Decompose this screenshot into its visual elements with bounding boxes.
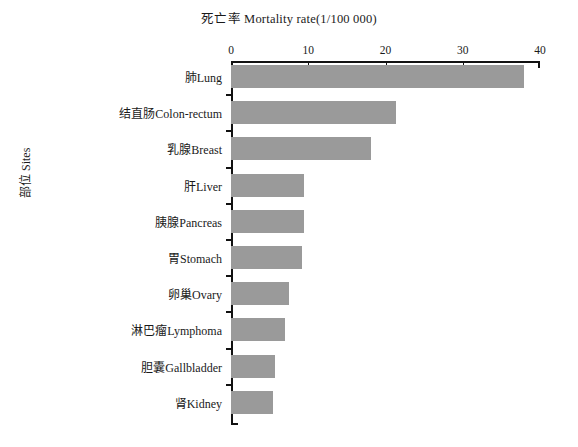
bar-row: 结直肠Colon-rectum xyxy=(231,101,540,124)
y-tick xyxy=(226,311,231,313)
plot-area: 010203040 肺Lung结直肠Colon-rectum乳腺Breast肝L… xyxy=(231,61,540,425)
category-label: 淋巴瘤Lymphoma xyxy=(2,321,231,339)
x-tick-label: 20 xyxy=(380,44,392,56)
bar-row: 肺Lung xyxy=(231,65,540,88)
x-tick-label: 30 xyxy=(457,44,469,56)
bar xyxy=(231,137,371,160)
y-tick xyxy=(226,275,231,277)
y-tick xyxy=(226,167,231,169)
bar-row: 胰腺Pancreas xyxy=(231,210,540,233)
bar-row: 肾Kidney xyxy=(231,391,540,414)
y-tick xyxy=(226,130,231,132)
bar xyxy=(231,65,524,88)
y-tick xyxy=(226,203,231,205)
category-label: 肺Lung xyxy=(2,68,231,86)
x-tick-label: 0 xyxy=(228,44,234,56)
category-label: 乳腺Breast xyxy=(2,140,231,158)
bar xyxy=(231,101,396,124)
category-label: 肝Liver xyxy=(2,177,231,195)
category-label: 卵巢Ovary xyxy=(2,285,231,303)
mortality-rate-bar-chart: 死亡率 Mortality rate(1/100 000) 部位 Sites 0… xyxy=(0,0,578,447)
category-label: 肾Kidney xyxy=(2,394,231,412)
y-tick xyxy=(226,239,231,241)
bar-row: 淋巴瘤Lymphoma xyxy=(231,318,540,341)
x-tick-label: 40 xyxy=(534,44,546,56)
x-tick-label: 10 xyxy=(303,44,315,56)
y-tick xyxy=(226,348,231,350)
bar xyxy=(231,391,273,414)
category-label: 胆囊Gallbladder xyxy=(2,358,231,376)
category-label: 胃Stomach xyxy=(2,249,231,267)
bar xyxy=(231,282,289,305)
y-axis-bottom-cap xyxy=(231,423,238,425)
category-label: 结直肠Colon-rectum xyxy=(2,104,231,122)
y-tick xyxy=(226,384,231,386)
bar xyxy=(231,246,302,269)
bar xyxy=(231,174,304,197)
bar-row: 乳腺Breast xyxy=(231,137,540,160)
bar xyxy=(231,318,285,341)
bar-row: 胆囊Gallbladder xyxy=(231,355,540,378)
bar-row: 肝Liver xyxy=(231,174,540,197)
bar xyxy=(231,210,304,233)
category-label: 胰腺Pancreas xyxy=(2,213,231,231)
bar-row: 卵巢Ovary xyxy=(231,282,540,305)
chart-title: 死亡率 Mortality rate(1/100 000) xyxy=(0,8,578,27)
bar xyxy=(231,355,275,378)
bar-row: 胃Stomach xyxy=(231,246,540,269)
y-tick xyxy=(226,94,231,96)
